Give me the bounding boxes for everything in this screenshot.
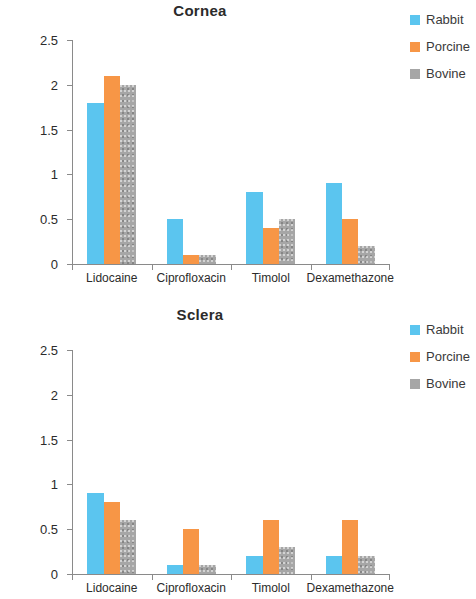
legend-swatch-rabbit-icon: [410, 15, 420, 25]
y-axis-label-cornea: Deff, cm2/s: [0, 133, 71, 159]
bar-porcine-lidocaine[interactable]: [104, 76, 120, 264]
legend-label-bovine: Bovine: [426, 377, 466, 390]
bar-porcine-timolol[interactable]: [263, 228, 279, 264]
y-tick-label: 0.5: [40, 212, 58, 227]
legend-swatch-porcine-icon: [410, 42, 420, 52]
x-tick: [152, 574, 153, 580]
x-tick: [72, 264, 73, 270]
x-tick-label: Ciprofloxacin: [157, 271, 226, 285]
bar-bovine-dexamethazone[interactable]: [358, 556, 374, 574]
legend-label-rabbit: Rabbit: [426, 13, 464, 26]
x-tick-label: Ciprofloxacin: [157, 581, 226, 595]
bar-rabbit-lidocaine[interactable]: [87, 493, 103, 574]
legend-item-porcine[interactable]: Porcine: [410, 343, 476, 370]
legend-label-rabbit: Rabbit: [426, 323, 464, 336]
legend-label-porcine: Porcine: [426, 40, 470, 53]
bars-sclera: [72, 350, 390, 574]
plot-area-cornea: Deff, cm2/s 00.511.522.5 LidocaineCiprof…: [0, 0, 410, 300]
axes-cornea: 00.511.522.5: [72, 40, 390, 265]
bar-rabbit-dexamethazone[interactable]: [326, 556, 342, 574]
x-tick-label: Dexamethazone: [307, 271, 394, 285]
legend-label-porcine: Porcine: [426, 350, 470, 363]
legend-item-rabbit[interactable]: Rabbit: [410, 316, 476, 343]
x-tick-label: Lidocaine: [86, 271, 137, 285]
y-tick-label: 1: [51, 167, 58, 182]
x-tick: [231, 574, 232, 580]
axes-sclera: 00.511.522.5: [72, 350, 390, 575]
legend-swatch-bovine-icon: [410, 379, 420, 389]
legend-item-rabbit[interactable]: Rabbit: [410, 6, 476, 33]
x-tick: [231, 264, 232, 270]
y-tick-label: 2: [51, 387, 58, 402]
bar-bovine-timolol[interactable]: [279, 547, 295, 574]
y-tick-label: 0.5: [40, 522, 58, 537]
bar-bovine-ciprofloxacin[interactable]: [199, 255, 215, 264]
bar-rabbit-lidocaine[interactable]: [87, 103, 103, 264]
bar-rabbit-timolol[interactable]: [246, 556, 262, 574]
y-axis-label-sclera: Deff, cm2/s: [0, 443, 71, 469]
y-tick-label: 2.5: [40, 343, 58, 358]
bar-bovine-ciprofloxacin[interactable]: [199, 565, 215, 574]
x-tick: [152, 264, 153, 270]
x-tick: [311, 574, 312, 580]
x-tick-label: Timolol: [252, 271, 290, 285]
legend-item-porcine[interactable]: Porcine: [410, 33, 476, 60]
bar-porcine-ciprofloxacin[interactable]: [183, 255, 199, 264]
y-tick-label: 0: [51, 567, 58, 582]
bar-porcine-dexamethazone[interactable]: [342, 520, 358, 574]
y-tick-label: 2: [51, 77, 58, 92]
chart-panel-sclera: Sclera Rabbit Porcine Bovine Deff, cm2/s…: [0, 300, 476, 591]
legend-cornea: Rabbit Porcine Bovine: [410, 6, 476, 87]
bar-bovine-lidocaine[interactable]: [120, 85, 136, 264]
chart-panel-cornea: Cornea Rabbit Porcine Bovine Deff, cm2/s…: [0, 0, 476, 300]
y-tick-label: 0: [51, 257, 58, 272]
y-tick-label: 1.5: [40, 432, 58, 447]
y-tick-label: 1.5: [40, 122, 58, 137]
plot-area-sclera: Deff, cm2/s 00.511.522.5 LidocaineCiprof…: [0, 300, 410, 591]
y-tick-label: 2.5: [40, 33, 58, 48]
bar-rabbit-ciprofloxacin[interactable]: [167, 565, 183, 574]
legend-sclera: Rabbit Porcine Bovine: [410, 316, 476, 397]
bar-porcine-ciprofloxacin[interactable]: [183, 529, 199, 574]
legend-swatch-rabbit-icon: [410, 325, 420, 335]
bar-porcine-lidocaine[interactable]: [104, 502, 120, 574]
bar-rabbit-dexamethazone[interactable]: [326, 183, 342, 264]
bar-porcine-timolol[interactable]: [263, 520, 279, 574]
bar-rabbit-timolol[interactable]: [246, 192, 262, 264]
legend-swatch-bovine-icon: [410, 69, 420, 79]
bar-porcine-dexamethazone[interactable]: [342, 219, 358, 264]
y-tick-label: 1: [51, 477, 58, 492]
legend-label-bovine: Bovine: [426, 67, 466, 80]
bar-rabbit-ciprofloxacin[interactable]: [167, 219, 183, 264]
x-tick-label: Dexamethazone: [307, 581, 394, 595]
bars-cornea: [72, 40, 390, 264]
x-tick: [389, 574, 390, 580]
legend-swatch-porcine-icon: [410, 352, 420, 362]
legend-item-bovine[interactable]: Bovine: [410, 60, 476, 87]
x-tick-labels-sclera: LidocaineCiprofloxacinTimololDexamethazo…: [72, 581, 390, 599]
x-tick: [72, 574, 73, 580]
bar-bovine-dexamethazone[interactable]: [358, 246, 374, 264]
x-tick-labels-cornea: LidocaineCiprofloxacinTimololDexamethazo…: [72, 271, 390, 291]
x-tick-label: Lidocaine: [86, 581, 137, 595]
bar-bovine-timolol[interactable]: [279, 219, 295, 264]
bar-bovine-lidocaine[interactable]: [120, 520, 136, 574]
legend-item-bovine[interactable]: Bovine: [410, 370, 476, 397]
x-tick: [311, 264, 312, 270]
x-tick: [389, 264, 390, 270]
x-tick-label: Timolol: [252, 581, 290, 595]
